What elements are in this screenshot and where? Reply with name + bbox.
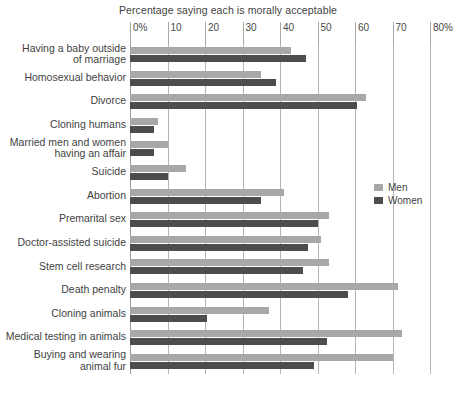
category-label: Cloning humans (0, 119, 126, 131)
bar-men (130, 283, 398, 290)
chart-row (130, 307, 430, 323)
x-axis-tick-label: 70 (393, 22, 407, 33)
legend-item-men: Men (374, 182, 422, 193)
category-label: Doctor-assisted suicide (0, 237, 126, 249)
bar-women (130, 197, 261, 204)
bar-men (130, 94, 366, 101)
legend-label-men: Men (388, 182, 407, 193)
bar-men (130, 259, 329, 266)
category-label: Cloning animals (0, 308, 126, 320)
category-label: Divorce (0, 95, 126, 107)
x-axis-tick-label: 40 (280, 22, 294, 33)
gridline (430, 44, 431, 374)
bar-women (130, 126, 154, 133)
legend-label-women: Women (388, 195, 422, 206)
category-label: Death penalty (0, 284, 126, 296)
x-axis-tick-label: 0% (130, 22, 147, 33)
category-label: Stem cell research (0, 261, 126, 273)
chart-row (130, 94, 430, 110)
bar-women (130, 267, 303, 274)
chart-row (130, 47, 430, 63)
chart-row (130, 283, 430, 299)
bar-men (130, 165, 186, 172)
bar-women (130, 220, 318, 227)
bar-men (130, 118, 158, 125)
category-label: Abortion (0, 190, 126, 202)
legend-swatch-women-icon (374, 197, 383, 204)
category-label: Having a baby outside of marriage (0, 43, 126, 66)
chart-row (130, 330, 430, 346)
x-axis-tick-label: 30 (243, 22, 257, 33)
bar-women (130, 362, 314, 369)
chart-row (130, 165, 430, 181)
legend: Men Women (374, 182, 422, 208)
bar-women (130, 244, 308, 251)
bar-women (130, 338, 327, 345)
chart-row (130, 354, 430, 370)
x-axis-tick-label: 10 (168, 22, 182, 33)
bar-men (130, 189, 284, 196)
bar-women (130, 291, 348, 298)
figure-caption (4, 384, 452, 398)
x-axis-tick-label: 20 (205, 22, 219, 33)
bar-men (130, 307, 269, 314)
plot-area (130, 44, 430, 374)
bar-men (130, 354, 393, 361)
category-label: Suicide (0, 166, 126, 178)
bar-women (130, 173, 168, 180)
bar-men (130, 47, 291, 54)
x-axis-tick-label: 50 (318, 22, 332, 33)
category-label: Homosexual behavior (0, 72, 126, 84)
chart-row (130, 118, 430, 134)
bar-women (130, 149, 154, 156)
legend-item-women: Women (374, 195, 422, 206)
bar-men (130, 141, 168, 148)
legend-swatch-men-icon (374, 184, 383, 191)
bar-men (130, 71, 261, 78)
bar-women (130, 102, 357, 109)
x-axis-tick-labels: 0%1020304050607080% (130, 22, 440, 44)
chart-row (130, 71, 430, 87)
category-label: Medical testing in animals (0, 331, 126, 343)
x-axis-tick-label: 80% (430, 22, 453, 33)
chart-row (130, 259, 430, 275)
chart-row (130, 236, 430, 252)
bar-men (130, 212, 329, 219)
chart-row (130, 141, 430, 157)
x-axis-tick-label: 60 (355, 22, 369, 33)
category-label: Buying and wearing animal fur (0, 349, 126, 372)
bar-men (130, 330, 402, 337)
bar-women (130, 79, 276, 86)
bar-men (130, 236, 321, 243)
bar-women (130, 315, 207, 322)
chart-row (130, 212, 430, 228)
category-label: Premarital sex (0, 213, 126, 225)
bar-women (130, 55, 306, 62)
chart-title: Percentage saying each is morally accept… (0, 4, 456, 16)
category-label: Married men and women having an affair (0, 137, 126, 160)
